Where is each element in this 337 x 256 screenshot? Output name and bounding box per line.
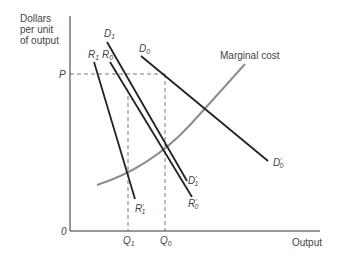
q1-label: Q1 [123,235,135,247]
price-label: P [59,69,66,80]
r0-end-label: R′0 [188,198,199,210]
origin-label: 0 [61,226,67,237]
y-axis-label-1: Dollars [20,13,51,24]
y-axis-label-2: per unit [20,24,54,35]
x-axis-label: Output [292,237,322,248]
r1-end-label: R′1 [135,203,146,215]
r1-start-label: R1 [88,49,99,61]
economics-diagram: Dollars per unit of output P 0 Q1 Q0 Out… [0,0,337,256]
d0-end-label: D′0 [273,157,284,169]
d1-end-label: D′1 [188,175,199,187]
d0-start-label: D0 [139,43,150,55]
r0-line [110,62,192,197]
y-axis-label-3: of output [20,35,59,46]
d1-start-label: D1 [104,28,115,40]
q0-label: Q0 [160,235,172,247]
marginal-cost-label: Marginal cost [220,50,280,61]
